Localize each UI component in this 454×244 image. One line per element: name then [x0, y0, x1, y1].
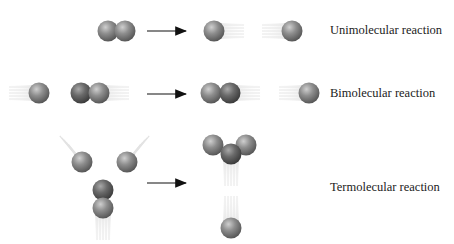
molecule-sphere [204, 21, 225, 42]
molecule-sphere-dark [221, 144, 242, 165]
molecule-sphere-dark [93, 180, 114, 201]
termolecular-row [60, 135, 257, 243]
molecule-sphere [282, 21, 303, 42]
molecule-sphere [221, 218, 242, 239]
termolecular-label: Termolecular reaction [330, 180, 440, 195]
unimolecular-row [98, 21, 303, 42]
molecule-sphere [117, 152, 138, 173]
molecule-sphere [115, 21, 136, 42]
bimolecular-label: Bimolecular reaction [330, 86, 435, 101]
molecule-sphere-dark [220, 83, 241, 104]
molecule-sphere [72, 152, 93, 173]
molecule-sphere [299, 83, 320, 104]
molecule-sphere [203, 135, 224, 156]
bimolecular-row [7, 83, 320, 104]
molecule-sphere [29, 83, 50, 104]
molecule-sphere-dark [71, 83, 92, 104]
unimolecular-label: Unimolecular reaction [330, 23, 442, 38]
molecule-sphere [93, 198, 114, 219]
molecule-sphere [201, 83, 222, 104]
molecule-sphere [89, 83, 110, 104]
